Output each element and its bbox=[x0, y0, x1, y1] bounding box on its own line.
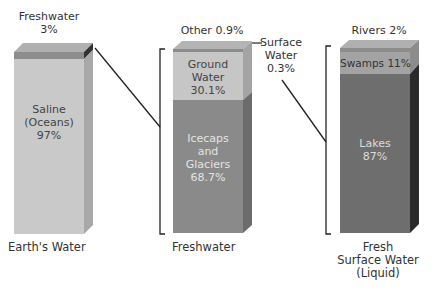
saline-label-sub: (Oceans) bbox=[14, 116, 84, 129]
connector-line-1 bbox=[95, 48, 160, 127]
bracket-surface-water bbox=[326, 46, 331, 234]
bracket-freshwater bbox=[160, 49, 165, 234]
icecaps-label-glaciers: Glaciers bbox=[173, 158, 243, 171]
bar1-top-face bbox=[14, 43, 93, 52]
connector-line-2 bbox=[282, 80, 326, 142]
icecaps-label-text: Icecaps bbox=[173, 132, 243, 145]
freshwater-label-text: Freshwater bbox=[14, 10, 84, 23]
lakes-label-percent: 87% bbox=[340, 150, 410, 163]
bar3-rivers-label: Rivers 2% bbox=[344, 24, 414, 37]
bar1-freshwater-label: Freshwater 3% bbox=[14, 10, 84, 36]
bar2-icecaps-label: Icecaps and Glaciers 68.7% bbox=[173, 132, 243, 184]
bar1-saline-front bbox=[14, 59, 84, 234]
bar1-saline-side bbox=[84, 50, 93, 234]
ground-water-label-percent: 30.1% bbox=[173, 84, 243, 97]
ground-water-label-sub: Water bbox=[173, 71, 243, 84]
bar2-ground-water-label: Ground Water 30.1% bbox=[173, 58, 243, 97]
bar1-caption: Earth's Water bbox=[8, 241, 94, 254]
bar2-top-face bbox=[173, 41, 252, 49]
bar2-other-strip bbox=[173, 49, 243, 52]
bar2-other-label: Other 0.9% bbox=[172, 24, 252, 37]
bar2-icecap-side bbox=[243, 92, 252, 233]
bar1-freshwater-strip bbox=[14, 52, 84, 59]
lakes-label-text: Lakes bbox=[340, 137, 410, 150]
bar2-ground-side bbox=[243, 41, 252, 100]
bar3-rivers-strip bbox=[340, 48, 410, 52]
saline-label-text: Saline bbox=[14, 103, 84, 116]
bar3-top-face bbox=[340, 40, 419, 48]
bar3-lakes-label: Lakes 87% bbox=[340, 137, 410, 163]
freshwater-label-percent: 3% bbox=[14, 23, 84, 36]
ground-water-label-text: Ground bbox=[173, 58, 243, 71]
bar3-caption: Fresh Surface Water (Liquid) bbox=[326, 241, 430, 280]
bar2-caption: Freshwater bbox=[172, 241, 248, 254]
bar3-lakes-side bbox=[410, 64, 419, 233]
surface-water-label-sub: Water bbox=[256, 49, 306, 62]
bar1-saline-label: Saline (Oceans) 97% bbox=[14, 103, 84, 142]
surface-water-label-text: Surface bbox=[256, 36, 306, 49]
bar2-surface-water-label: Surface Water 0.3% bbox=[256, 36, 306, 75]
bar3-swamps-label: Swamps 11% bbox=[340, 57, 410, 70]
saline-label-percent: 97% bbox=[14, 129, 84, 142]
caption-line-3: (Liquid) bbox=[326, 267, 430, 280]
surface-water-label-percent: 0.3% bbox=[256, 62, 306, 75]
icecaps-label-percent: 68.7% bbox=[173, 171, 243, 184]
icecaps-label-and: and bbox=[173, 145, 243, 158]
